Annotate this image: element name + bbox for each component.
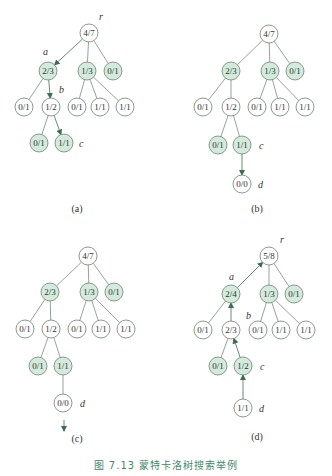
tree-edge: [42, 116, 48, 135]
node-value: 1/3: [263, 289, 275, 299]
tree-node: 1/1: [234, 399, 252, 417]
tree-edge: [93, 263, 108, 284]
tree-node: 0/1: [16, 320, 34, 338]
tree-edge: [90, 79, 97, 98]
node-value: 1/1: [120, 324, 132, 334]
tree-edge: [41, 337, 48, 357]
node-value: 0/1: [33, 138, 45, 148]
tree-edge: [274, 264, 289, 287]
tree-edge: [237, 40, 262, 64]
tree-node: 0/1: [30, 134, 48, 152]
node-value: 1/1: [95, 324, 107, 334]
node-value: 0/1: [288, 289, 300, 299]
tree-node: 0/1: [194, 321, 212, 339]
tree-node: 0/1: [286, 62, 304, 80]
node-value: 0/1: [32, 361, 44, 371]
node-value: 0/1: [289, 66, 301, 76]
tree-node: 2/3: [39, 62, 57, 80]
panel-label: (a): [71, 203, 82, 215]
node-tag-b: b: [59, 84, 64, 95]
node-value: 0/1: [108, 287, 120, 297]
node-value: 0/1: [71, 324, 83, 334]
node-value: 1/2: [45, 324, 57, 334]
figure-caption: 图 7.13 蒙特卡洛树搜索举例: [0, 457, 332, 472]
node-value: 1/1: [236, 140, 248, 150]
node-value: 1/1: [275, 325, 287, 335]
node-value: 0/1: [212, 361, 224, 371]
tree-node: 0/1: [15, 98, 33, 116]
node-value: 0/1: [197, 325, 209, 335]
tree-node: 2/3: [222, 321, 240, 339]
tree-node: 1/1: [91, 98, 109, 116]
node-value: 1/1: [94, 102, 106, 112]
tree-node: 1/2: [42, 98, 60, 116]
tree-edge: [272, 303, 278, 322]
node-tag-b: b: [246, 310, 251, 321]
panel-label: (d): [251, 431, 263, 443]
tree-edge: [94, 41, 108, 64]
arrow-edge: [234, 339, 240, 358]
tree-edge: [272, 80, 277, 99]
node-value: 2/3: [44, 287, 56, 297]
tree-edge: [269, 43, 270, 62]
tree-edge: [57, 262, 82, 286]
node-tag-c: c: [260, 361, 265, 372]
tree-node: 4/7: [80, 24, 98, 42]
arrow-edge: [49, 80, 51, 98]
tree-node: 1/2: [42, 320, 60, 338]
node-tag-r: r: [280, 234, 284, 245]
tree-edge: [260, 79, 267, 98]
tree-node: 0/1: [285, 285, 303, 303]
tree-edge: [221, 116, 228, 137]
node-tag-c: c: [79, 138, 84, 149]
node-tag-a: a: [229, 271, 234, 282]
node-value: 1/1: [57, 361, 69, 371]
panel-label: (b): [251, 203, 263, 215]
tree-node: 0/1: [248, 98, 266, 116]
tree-node: 0/1: [209, 357, 227, 375]
node-value: 0/1: [19, 324, 31, 334]
tree-node: 1/3: [261, 62, 279, 80]
node-tag-d: d: [258, 179, 264, 190]
tree-node: 0/0: [233, 175, 251, 193]
tree-node: 0/1: [29, 357, 47, 375]
node-value: 1/1: [237, 403, 249, 413]
node-value: 1/1: [300, 325, 312, 335]
tree-node: 4/7: [260, 25, 278, 43]
tree-edge: [234, 116, 240, 137]
tree-edge: [54, 338, 60, 358]
node-tag-r: r: [99, 11, 103, 22]
node-tag-d: d: [259, 403, 265, 414]
tree-edge: [88, 265, 89, 283]
node-value: 1/3: [83, 287, 95, 297]
tree-node: 0/1: [194, 98, 212, 116]
tree-node: 1/1: [92, 320, 110, 338]
tree-node: 0/1: [68, 320, 86, 338]
tree-node: 1/1: [272, 321, 290, 339]
node-value: 1/3: [81, 66, 93, 76]
tree-edge: [209, 78, 226, 100]
tree-edge: [209, 301, 226, 323]
node-value: 1/2: [45, 102, 57, 112]
tree-node: 1/1: [233, 136, 251, 154]
node-value: 0/1: [107, 66, 119, 76]
node-tag-a: a: [43, 46, 48, 57]
node-value: 0/1: [212, 140, 224, 150]
node-tag-c: c: [259, 140, 264, 151]
tree-edge: [50, 301, 51, 320]
node-value: 0/1: [197, 102, 209, 112]
panel-label: (c): [71, 433, 82, 445]
tree-node: 0/1: [209, 136, 227, 154]
tree-edge: [30, 299, 45, 321]
node-tag-d: d: [80, 398, 86, 409]
tree-edge: [276, 77, 298, 100]
node-value: 1/1: [58, 138, 70, 148]
tree-node: 1/2: [234, 357, 252, 375]
tree-node: 1/1: [55, 134, 73, 152]
tree-edge: [80, 301, 86, 321]
tree-panel-a: 4/72/31/30/10/11/20/11/11/10/11/1rabc(a): [15, 11, 134, 215]
tree-node: 1/1: [296, 98, 314, 116]
node-value: 4/7: [263, 29, 275, 39]
node-value: 0/0: [57, 398, 69, 408]
node-value: 1/2: [225, 102, 237, 112]
